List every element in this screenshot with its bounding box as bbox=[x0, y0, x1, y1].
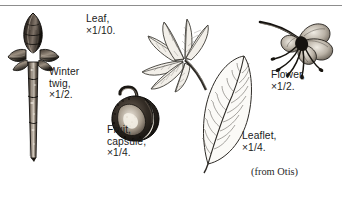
botanical-plate: Winter twig, ×1/2. bbox=[0, 0, 342, 199]
label-flower: Flower, ×1/2. bbox=[271, 69, 305, 92]
label-fruit: Fruit, capsule, ×1/4. bbox=[107, 124, 146, 159]
lateral-bud-right bbox=[40, 49, 59, 61]
label-leaf: Leaf, ×1/10. bbox=[86, 13, 116, 36]
credit-attribution: (from Otis) bbox=[251, 166, 298, 177]
label-leaflet: Leaflet, ×1/4. bbox=[242, 130, 277, 153]
twig-stem bbox=[28, 62, 38, 162]
leaflet-stalk bbox=[204, 164, 208, 173]
label-winter-twig: Winter twig, ×1/2. bbox=[49, 66, 79, 101]
top-divider-rule bbox=[0, 5, 342, 6]
terminal-bud bbox=[24, 13, 42, 53]
lateral-bud-left bbox=[8, 49, 26, 61]
